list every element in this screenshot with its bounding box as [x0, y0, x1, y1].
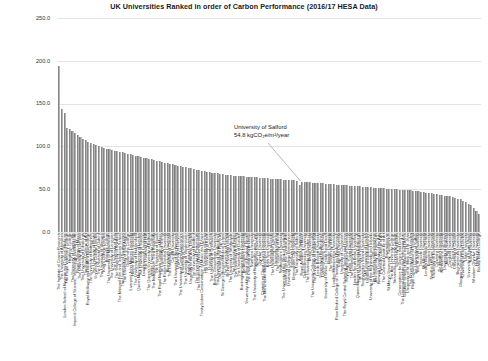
- y-axis-labels: 250.0200.0150.0100.050.00.0: [0, 0, 56, 361]
- y-axis-tick-label: 0.0: [0, 229, 50, 235]
- annotation-line-1: University of Salford: [234, 124, 289, 132]
- x-axis-tick-label: Bishop Burton College: [477, 233, 481, 272]
- chart-container: UK Universities Ranked in order of Carbo…: [0, 0, 488, 361]
- chart-title: UK Universities Ranked in order of Carbo…: [0, 2, 488, 11]
- y-axis-tick-label: 200.0: [0, 58, 50, 64]
- y-axis-tick-label: 100.0: [0, 143, 50, 149]
- x-axis-tick: Bishop Burton College: [478, 233, 481, 359]
- x-axis-labels: The Institute of Cancer ResearchThe Univ…: [58, 233, 481, 359]
- bar: [478, 214, 480, 232]
- y-axis-tick-label: 250.0: [0, 15, 50, 21]
- y-axis-tick-label: 150.0: [0, 100, 50, 106]
- y-axis-tick-label: 50.0: [0, 186, 50, 192]
- annotation-label: University of Salford 54.8 kgCO₂e/m²/yea…: [234, 124, 289, 140]
- annotation-line-2: 54.8 kgCO₂e/m²/year: [234, 132, 289, 140]
